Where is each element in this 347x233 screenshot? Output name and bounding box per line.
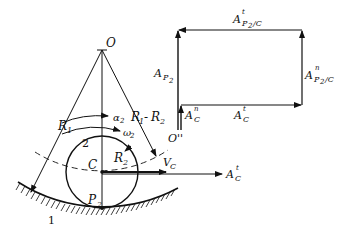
- label-act: A t C: [233, 105, 249, 124]
- svg-text:P: P: [241, 19, 248, 28]
- svg-text:A: A: [225, 168, 234, 181]
- label-vc: V C: [163, 156, 176, 171]
- svg-text:α: α: [113, 112, 120, 123]
- svg-text:-: -: [144, 110, 148, 124]
- svg-text:2: 2: [159, 117, 165, 126]
- svg-text:/C: /C: [252, 19, 262, 28]
- label-ap2: A P 2: [153, 67, 174, 85]
- svg-text:C: C: [235, 174, 241, 183]
- svg-text:1: 1: [67, 126, 72, 135]
- label-alpha: α 2: [113, 112, 125, 125]
- label-acn: A n C: [184, 105, 200, 124]
- label-p2: P 2: [87, 193, 102, 209]
- svg-text:A: A: [304, 69, 313, 82]
- acceleration-polygon: O'' A P 2 A n C A t C A n P 2 /C A t P 2: [153, 8, 334, 145]
- label-c: C: [88, 158, 97, 172]
- svg-text:R: R: [150, 110, 160, 124]
- svg-text:2: 2: [122, 158, 128, 167]
- r1-minus-r2-line: [102, 50, 156, 156]
- label-ac-t-left: A t C: [225, 164, 241, 183]
- svg-text:A: A: [153, 67, 162, 80]
- mechanism: O C 2 1 P 2 R 1 R 2 R 1 - R 2 α 2 ω 2: [16, 36, 241, 227]
- label-wheel-2: 2: [82, 137, 89, 150]
- svg-text:P: P: [313, 75, 320, 84]
- svg-text:n: n: [315, 64, 320, 72]
- label-r1-minus-r2: R 1 - R 2: [130, 110, 165, 126]
- svg-text:t: t: [243, 105, 246, 113]
- svg-text:R: R: [113, 151, 123, 165]
- svg-text:P: P: [87, 193, 97, 207]
- svg-text:P: P: [162, 73, 169, 82]
- svg-text:n: n: [194, 105, 199, 113]
- diagram-svg: O C 2 1 P 2 R 1 R 2 R 1 - R 2 α 2 ω 2: [0, 0, 347, 233]
- svg-text:2: 2: [168, 77, 174, 85]
- point-c: [100, 170, 104, 174]
- svg-text:R: R: [57, 119, 67, 133]
- svg-text:C: C: [194, 115, 200, 124]
- label-o: O: [106, 36, 116, 50]
- label-r2: R 2: [113, 151, 128, 167]
- svg-text:2: 2: [129, 132, 135, 140]
- svg-text:t: t: [242, 8, 245, 16]
- label-ap2c-tangential: A t P 2 /C: [232, 8, 262, 30]
- svg-text:t: t: [236, 164, 239, 172]
- svg-text:C: C: [243, 115, 249, 124]
- svg-text:A: A: [184, 109, 193, 122]
- label-origin-o2: O'': [168, 132, 183, 145]
- acceleration-diagram: O C 2 1 P 2 R 1 R 2 R 1 - R 2 α 2 ω 2: [0, 0, 347, 233]
- svg-text:2: 2: [96, 200, 102, 209]
- label-ground-1: 1: [48, 214, 55, 227]
- svg-text:2: 2: [119, 117, 125, 125]
- svg-text:C: C: [170, 162, 176, 171]
- label-ap2c-normal: A n P 2 /C: [304, 64, 334, 86]
- label-omega: ω 2: [123, 127, 135, 140]
- svg-text:A: A: [233, 109, 242, 122]
- svg-text:/C: /C: [324, 75, 334, 84]
- svg-text:A: A: [232, 13, 241, 26]
- label-r1: R 1: [57, 119, 72, 135]
